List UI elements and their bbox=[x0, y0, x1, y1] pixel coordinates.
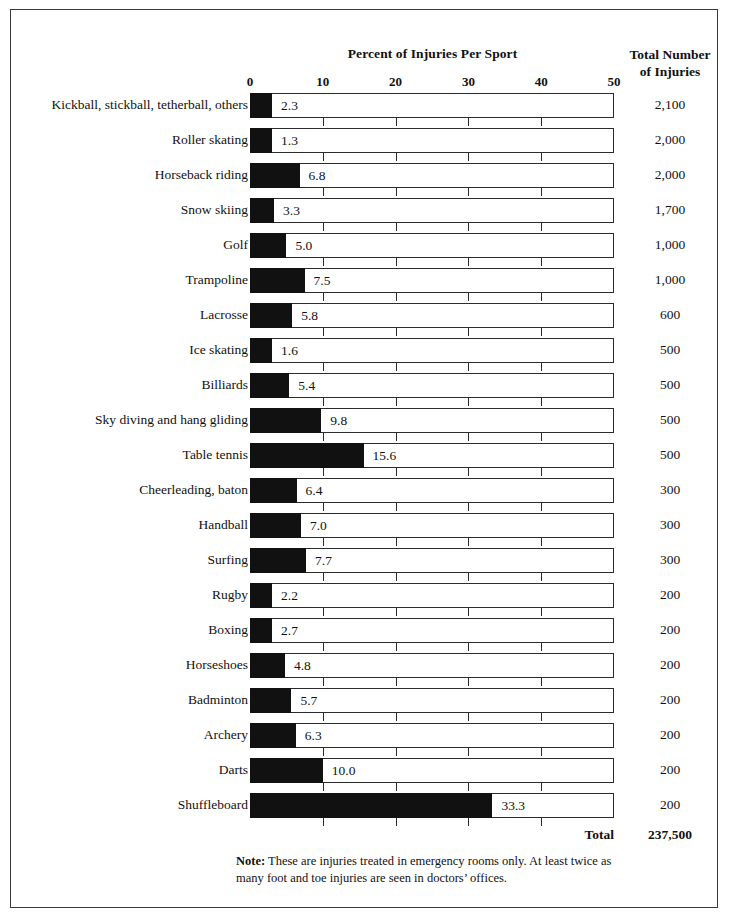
row-label: Horseback riding bbox=[155, 167, 248, 183]
tick-mark bbox=[541, 433, 542, 441]
chart-row: Table tennis15.6500 bbox=[0, 442, 745, 477]
row-total-injuries: 1,000 bbox=[622, 272, 718, 288]
bar-value-label: 7.5 bbox=[314, 273, 331, 289]
bar-track: 7.7 bbox=[250, 548, 614, 573]
row-tick-marks bbox=[250, 818, 614, 827]
tick-mark bbox=[468, 223, 469, 231]
row-tick-marks bbox=[250, 398, 614, 407]
tick-mark bbox=[468, 713, 469, 721]
total-injuries-header-line1: Total Number bbox=[622, 46, 718, 63]
tick-mark bbox=[323, 678, 324, 686]
chart-row: Badminton5.7200 bbox=[0, 687, 745, 722]
bar-fill bbox=[250, 443, 364, 468]
row-tick-marks bbox=[250, 713, 614, 722]
row-label: Lacrosse bbox=[200, 307, 248, 323]
row-label: Table tennis bbox=[183, 447, 248, 463]
x-tick-0: 0 bbox=[247, 74, 254, 90]
x-tick-20: 20 bbox=[389, 74, 402, 90]
row-tick-marks bbox=[250, 258, 614, 267]
tick-mark bbox=[468, 748, 469, 756]
bar-value-label: 3.3 bbox=[283, 203, 300, 219]
row-total-injuries: 200 bbox=[622, 797, 718, 813]
row-tick-marks bbox=[250, 328, 614, 337]
chart-row: Ice skating1.6500 bbox=[0, 337, 745, 372]
bar-track: 5.0 bbox=[250, 233, 614, 258]
tick-mark bbox=[468, 188, 469, 196]
bar-fill bbox=[250, 128, 272, 153]
chart-row: Snow skiing3.31,700 bbox=[0, 197, 745, 232]
bar-value-label: 5.8 bbox=[301, 308, 318, 324]
x-tick-10: 10 bbox=[316, 74, 329, 90]
row-label: Archery bbox=[204, 727, 248, 743]
tick-mark bbox=[396, 748, 397, 756]
row-label: Cheerleading, baton bbox=[139, 482, 248, 498]
chart-row: Horseshoes4.8200 bbox=[0, 652, 745, 687]
bar-fill bbox=[250, 338, 272, 363]
bar-value-label: 7.7 bbox=[315, 553, 332, 569]
bar-fill bbox=[250, 793, 492, 818]
row-tick-marks bbox=[250, 188, 614, 197]
row-tick-marks bbox=[250, 433, 614, 442]
chart-row: Archery6.3200 bbox=[0, 722, 745, 757]
tick-mark bbox=[396, 678, 397, 686]
row-total-injuries: 2,100 bbox=[622, 97, 718, 113]
tick-mark bbox=[323, 608, 324, 616]
bar-track: 5.8 bbox=[250, 303, 614, 328]
tick-mark bbox=[396, 538, 397, 546]
row-total-injuries: 200 bbox=[622, 727, 718, 743]
tick-mark bbox=[468, 433, 469, 441]
tick-mark bbox=[323, 468, 324, 476]
row-total-injuries: 600 bbox=[622, 307, 718, 323]
bar-fill bbox=[250, 653, 285, 678]
row-tick-marks bbox=[250, 118, 614, 127]
bar-value-label: 2.2 bbox=[281, 588, 298, 604]
tick-mark bbox=[541, 538, 542, 546]
bar-track: 6.3 bbox=[250, 723, 614, 748]
tick-mark bbox=[396, 713, 397, 721]
bar-value-label: 1.3 bbox=[281, 133, 298, 149]
bar-track: 2.7 bbox=[250, 618, 614, 643]
row-label: Horseshoes bbox=[186, 657, 248, 673]
tick-mark bbox=[541, 118, 542, 126]
row-tick-marks bbox=[250, 678, 614, 687]
tick-mark bbox=[323, 643, 324, 651]
row-tick-marks bbox=[250, 223, 614, 232]
bar-value-label: 2.7 bbox=[281, 623, 298, 639]
bar-fill bbox=[250, 548, 306, 573]
row-total-injuries: 2,000 bbox=[622, 132, 718, 148]
tick-mark bbox=[396, 503, 397, 511]
tick-mark bbox=[541, 643, 542, 651]
tick-mark bbox=[323, 258, 324, 266]
tick-mark bbox=[468, 503, 469, 511]
tick-mark bbox=[396, 363, 397, 371]
chart-row: Lacrosse5.8600 bbox=[0, 302, 745, 337]
bar-track: 1.6 bbox=[250, 338, 614, 363]
bar-fill bbox=[250, 478, 297, 503]
bar-value-label: 7.0 bbox=[310, 518, 327, 534]
tick-mark bbox=[468, 538, 469, 546]
row-tick-marks bbox=[250, 783, 614, 792]
bar-value-label: 10.0 bbox=[332, 763, 356, 779]
tick-mark bbox=[541, 573, 542, 581]
bar-track: 6.8 bbox=[250, 163, 614, 188]
total-row: Total 237,500 bbox=[0, 827, 745, 847]
row-total-injuries: 500 bbox=[622, 412, 718, 428]
tick-mark bbox=[396, 433, 397, 441]
tick-mark bbox=[396, 818, 397, 826]
bar-fill bbox=[250, 268, 305, 293]
bar-track: 7.0 bbox=[250, 513, 614, 538]
tick-mark bbox=[541, 468, 542, 476]
tick-mark bbox=[323, 153, 324, 161]
chart-row: Handball7.0300 bbox=[0, 512, 745, 547]
bar-fill bbox=[250, 233, 286, 258]
tick-mark bbox=[323, 328, 324, 336]
bar-track: 5.4 bbox=[250, 373, 614, 398]
bar-track: 9.8 bbox=[250, 408, 614, 433]
tick-mark bbox=[468, 398, 469, 406]
bar-fill bbox=[250, 723, 296, 748]
tick-mark bbox=[323, 503, 324, 511]
tick-mark bbox=[396, 188, 397, 196]
tick-mark bbox=[468, 363, 469, 371]
tick-mark bbox=[396, 573, 397, 581]
bar-track: 3.3 bbox=[250, 198, 614, 223]
